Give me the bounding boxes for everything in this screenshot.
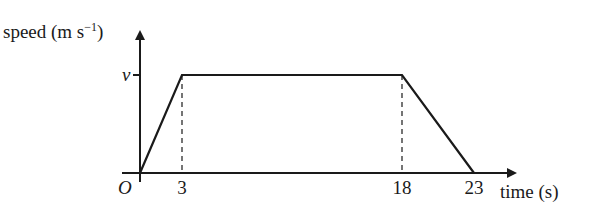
x-axis-label: time (s) [500, 181, 559, 203]
speed-time-graph: speed (m s−1) v O 3 18 23 time (s) [0, 0, 589, 212]
v-label: v [122, 64, 131, 85]
origin-label: O [118, 177, 132, 198]
tick-label-18: 18 [393, 177, 412, 198]
y-axis-label: speed (m s−1) [3, 20, 103, 43]
speed-line [140, 75, 474, 173]
tick-label-23: 23 [465, 177, 484, 198]
tick-label-3: 3 [177, 177, 187, 198]
